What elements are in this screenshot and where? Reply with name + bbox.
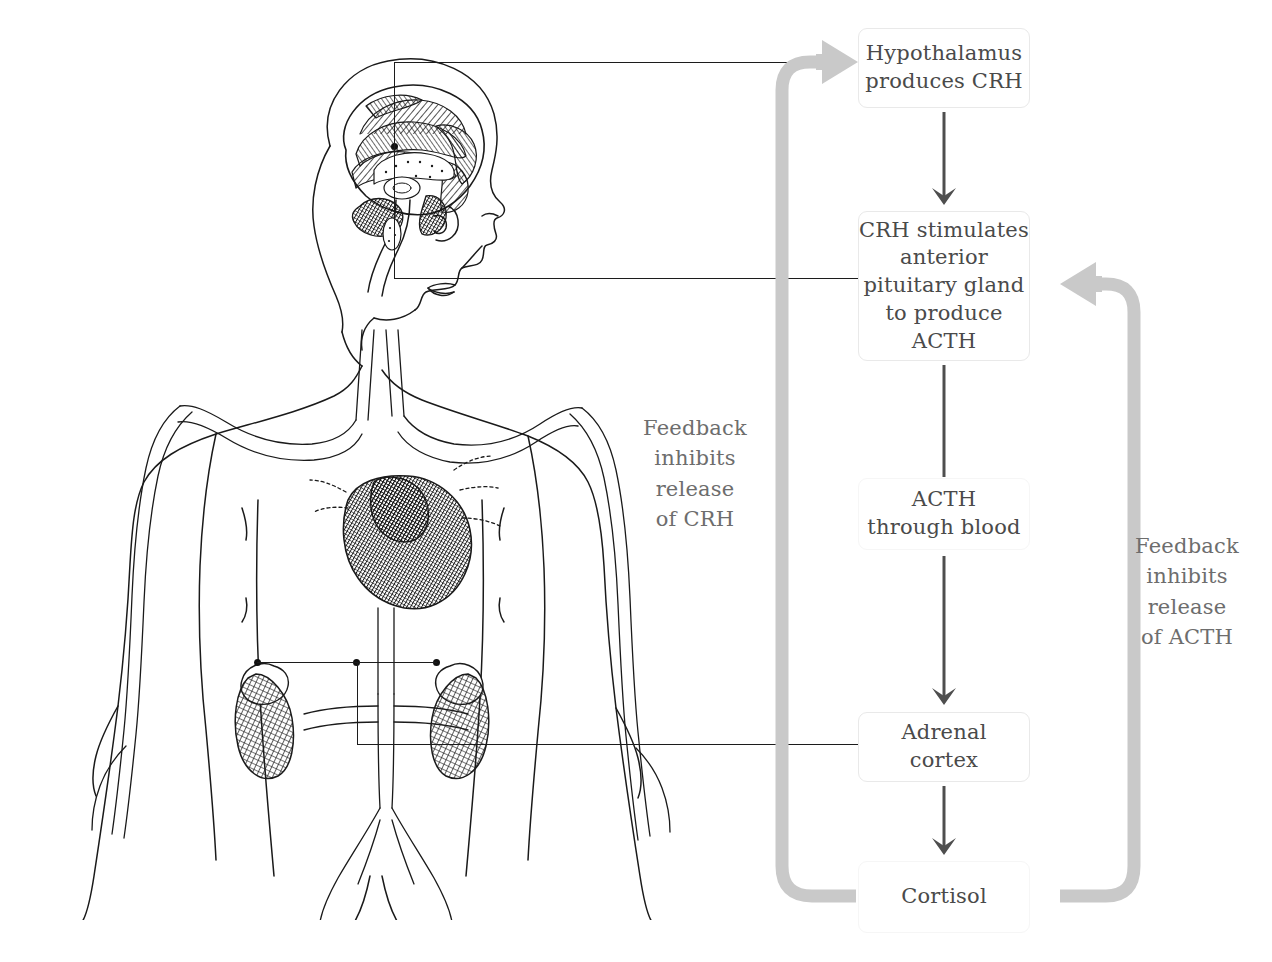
pituitary-leader-vertical	[394, 146, 395, 278]
hypothalamus-leader-horizontal	[394, 62, 814, 63]
hypothalamus-leader-vertical	[394, 62, 395, 148]
cortisol-line-1: Cortisol	[901, 883, 987, 911]
flow-box-adrenal-cortex[interactable]: Adrenal cortex	[858, 712, 1030, 782]
diagram-canvas: Hypothalamus produces CRH CRH stimulates…	[0, 0, 1272, 962]
hypothalamus-line-2: produces CRH	[865, 68, 1022, 96]
feedback-loop-cortisol-to-hypothalamus	[760, 30, 880, 920]
adrenal-leader-vertical	[357, 662, 358, 744]
flow-box-hypothalamus[interactable]: Hypothalamus produces CRH	[858, 28, 1030, 108]
connector-adrenal-to-cortisol	[928, 786, 960, 858]
pituitary-line-4: to produce	[859, 300, 1029, 328]
flow-box-pituitary[interactable]: CRH stimulates anterior pituitary gland …	[858, 211, 1030, 361]
hypothalamus-line-1: Hypothalamus	[865, 40, 1022, 68]
acth-blood-line-1: ACTH	[867, 486, 1020, 514]
adrenal-line-1: Adrenal	[901, 719, 986, 747]
feedback-label-crh: Feedback inhibits release of CRH	[620, 413, 770, 535]
feedback-acth-line-3: release	[1108, 592, 1266, 622]
connector-acth-blood-to-adrenal	[928, 556, 960, 708]
connector-pituitary-to-acth-blood	[928, 365, 960, 477]
pituitary-line-5: ACTH	[859, 328, 1029, 356]
feedback-acth-line-2: inhibits	[1108, 561, 1266, 591]
flow-box-cortisol[interactable]: Cortisol	[858, 861, 1030, 933]
acth-blood-line-2: through blood	[867, 514, 1020, 542]
flow-box-acth-blood[interactable]: ACTH through blood	[858, 478, 1030, 550]
adrenal-leader-horizontal-top	[257, 662, 437, 663]
pituitary-line-2: anterior	[859, 244, 1029, 272]
connector-hypothalamus-to-pituitary	[928, 112, 960, 208]
feedback-acth-line-4: of ACTH	[1108, 622, 1266, 652]
feedback-crh-line-4: of CRH	[620, 504, 770, 534]
pituitary-line-1: CRH stimulates	[859, 217, 1029, 245]
pituitary-line-3: pituitary gland	[859, 272, 1029, 300]
adrenal-line-2: cortex	[901, 747, 986, 775]
feedback-crh-line-1: Feedback	[620, 413, 770, 443]
feedback-crh-line-2: inhibits	[620, 443, 770, 473]
feedback-crh-line-3: release	[620, 474, 770, 504]
human-anatomy-illustration	[30, 30, 690, 920]
feedback-acth-line-1: Feedback	[1108, 531, 1266, 561]
feedback-label-acth: Feedback inhibits release of ACTH	[1108, 531, 1266, 653]
